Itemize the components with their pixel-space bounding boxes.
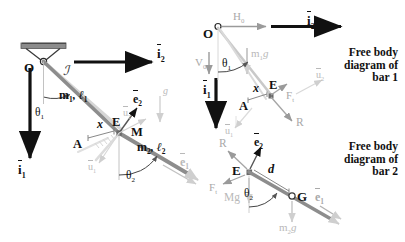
bar1-length-sym: , ℓ <box>73 88 84 102</box>
label-point-a-fbd1: A <box>239 100 248 113</box>
basis-i2-sym: i <box>157 46 161 61</box>
force-v0-subscript: 0 <box>203 63 206 70</box>
dimension-x-line-main <box>88 131 114 138</box>
label-basis-i1-fbd1: i1 <box>203 83 211 100</box>
fbd-bar2-title: Free body diagram of bar 2 <box>300 140 398 178</box>
label-unit-vector-e2-fbd2: e2 <box>254 136 263 151</box>
angle-theta2-arc-fbd2 <box>249 193 277 207</box>
theta1-subscript-fbd1: 1 <box>228 64 232 72</box>
label-theta2-main: θ2 <box>126 170 135 184</box>
e1-sym-fbd2: e <box>315 190 320 204</box>
label-pivot-o-fbd1: O <box>203 27 213 40</box>
ghost-u1-subscript-fbd1: 1 <box>230 131 233 138</box>
theta2-subscript-fbd2: 2 <box>250 194 254 202</box>
basis-i1-sym-fbd1: i <box>203 82 207 97</box>
bar2-mass-sym: m <box>137 140 147 154</box>
label-point-a-main: A <box>73 138 82 151</box>
label-theta1-fbd1: θ1 <box>222 58 231 72</box>
label-force-v0-fbd1: V0 <box>195 57 206 71</box>
e2-sym-fbd2: e <box>254 135 259 149</box>
ghost-u1-sym: u <box>88 161 93 172</box>
label-unit-vector-e1-fbd2: e1 <box>315 191 324 206</box>
e1-sym: e <box>180 155 185 169</box>
label-frame-i-main: ℐ <box>63 64 69 77</box>
ghost-u1-subscript: 1 <box>93 167 96 174</box>
label-force-ft-fbd1: Ft <box>286 90 294 104</box>
fbd-bar1-title: Free body diagram of bar 1 <box>300 46 398 84</box>
label-dimension-d-fbd2: d <box>268 163 274 176</box>
label-basis-i1-main: i1 <box>18 163 26 180</box>
label-force-r-fbd2: R <box>219 138 227 150</box>
label-basis-i2-main: i2 <box>157 47 165 64</box>
theta1-subscript: 1 <box>41 113 45 121</box>
label-force-h0-fbd1: H0 <box>233 11 244 25</box>
e2-sym: e <box>133 92 138 106</box>
basis-i1-subscript-fbd1: 1 <box>207 91 211 100</box>
weight-g-sym: g <box>263 47 269 59</box>
bar2-length-sym: , ℓ <box>151 140 162 154</box>
e1-subscript-fbd2: 1 <box>320 197 324 206</box>
label-weight-mg-fbd2: Mg <box>224 192 240 204</box>
e2-subscript-fbd2: 2 <box>259 142 263 151</box>
theta2-subscript: 2 <box>132 176 136 184</box>
bar-2-extension-fbd2 <box>331 219 339 224</box>
force-h0-subscript: 0 <box>241 17 244 24</box>
label-dimension-x-main: x <box>97 118 103 130</box>
label-pivot-o-main: O <box>24 61 34 74</box>
label-ghost-u2-main: u2 <box>123 108 131 120</box>
angle-theta2-arc-main <box>119 156 157 175</box>
basis-i2-subscript-fbd1: 2 <box>311 22 315 31</box>
label-point-e-main: E <box>112 116 120 129</box>
basis-i1-subscript: 1 <box>22 171 26 180</box>
label-weight-m1g-fbd1: m1g <box>251 48 268 62</box>
label-point-m-main: M <box>131 126 143 139</box>
label-force-r-fbd1: R <box>296 117 304 129</box>
bar1-mass-sym: m <box>59 88 69 102</box>
weight-m1-sym: m <box>251 47 260 59</box>
e1-subscript: 1 <box>185 162 189 171</box>
bar2-length-subscript: 2 <box>162 147 166 156</box>
ghost-u2-subscript: 2 <box>128 113 131 120</box>
label-dimension-x-fbd1: x <box>253 82 259 94</box>
label-basis-i2-fbd1: i2 <box>307 14 315 31</box>
bar1-length-subscript: 1 <box>84 95 88 104</box>
basis-i2-sym-fbd1: i <box>307 13 311 28</box>
ghost-unit-vector-u1-main <box>99 133 119 163</box>
bar-2-extension-main <box>192 176 198 180</box>
weight-m2-g-sym: g <box>291 221 297 233</box>
force-h0-sym: H <box>233 10 241 22</box>
label-point-e-fbd2: E <box>232 164 241 177</box>
e2-subscript: 2 <box>138 99 142 108</box>
label-point-g-fbd2: G <box>297 190 307 203</box>
center-of-mass-g-fbd2 <box>289 193 295 199</box>
label-unit-vector-e2-main: e2 <box>133 93 142 108</box>
label-weight-m2g-fbd2: m2g <box>279 222 296 236</box>
weight-m2-sym: m <box>279 221 288 233</box>
label-ghost-u1-main: u1 <box>88 162 96 174</box>
force-ft-subscript-fbd1: t <box>292 96 294 103</box>
figure-canvas: O ℐ i2 i1 m1, ℓ1 m2, ℓ2 θ1 θ2 A x E M e2… <box>0 0 405 242</box>
basis-i2-subscript: 2 <box>161 55 165 64</box>
basis-i1-sym: i <box>18 162 22 177</box>
label-unit-vector-e1-main: e1 <box>180 156 189 171</box>
ghost-u1-sym-fbd1: u <box>225 125 230 136</box>
label-bar1-properties-main: m1, ℓ1 <box>59 89 88 104</box>
force-v0-sym: V <box>195 56 203 68</box>
label-point-e-fbd1: E <box>269 79 277 92</box>
label-bar2-properties-main: m2, ℓ2 <box>137 141 166 156</box>
label-force-ft-fbd2: Ft <box>209 182 217 196</box>
label-theta2-fbd2: θ2 <box>244 188 253 202</box>
ghost-u2-sym: u <box>123 107 128 118</box>
force-ft-subscript-fbd2: t <box>215 188 217 195</box>
label-ghost-gravity-main: g <box>163 86 168 96</box>
label-theta1-main: θ1 <box>35 107 44 121</box>
